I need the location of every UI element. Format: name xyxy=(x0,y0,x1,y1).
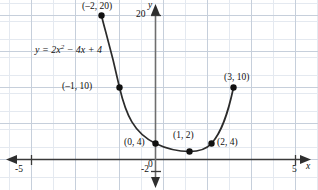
equation-annotation: y = 2x2 − 4x + 4 xyxy=(35,44,102,55)
y-tick-label-20: 20 xyxy=(136,10,146,20)
point-label-neg2-20: (–2, 20) xyxy=(82,2,112,12)
point-label-3-10: (3, 10) xyxy=(224,73,249,83)
data-point xyxy=(98,12,104,18)
x-axis-label: x xyxy=(306,162,310,172)
data-point xyxy=(230,84,236,90)
point-label-neg1-10: (–1, 10) xyxy=(62,82,92,92)
x-tick-label-neg5: -5 xyxy=(15,165,23,175)
equation-rhs: − 4x + 4 xyxy=(64,44,102,55)
y-axis-label: y xyxy=(148,1,152,11)
graph-figure: (–2, 20) (–1, 10) (0, 4) (1, 2) (2, 4) (… xyxy=(0,0,318,190)
point-label-2-4: (2, 4) xyxy=(217,138,238,148)
axes xyxy=(6,4,311,188)
origin-label: 0 xyxy=(148,160,153,170)
data-point xyxy=(152,140,158,146)
data-point xyxy=(208,140,214,146)
parabola-curve xyxy=(102,16,234,152)
data-point xyxy=(186,148,192,154)
grid-lines xyxy=(0,0,318,190)
equation-lhs: y = 2x xyxy=(35,44,61,55)
x-tick-label-5: 5 xyxy=(292,165,297,175)
data-point xyxy=(116,84,122,90)
coordinate-plane-svg xyxy=(0,0,318,190)
point-label-0-4: (0, 4) xyxy=(124,138,145,148)
point-label-1-2: (1, 2) xyxy=(173,131,194,141)
